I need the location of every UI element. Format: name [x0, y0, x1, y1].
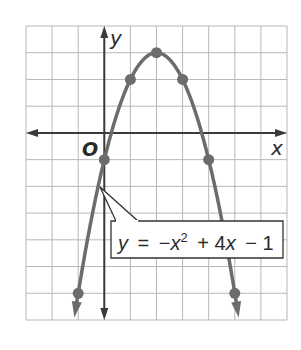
plotted-point [125, 74, 136, 85]
y-axis-up-arrow-icon [100, 26, 108, 38]
x-axis-left-arrow-icon [26, 129, 38, 137]
y-axis-label: y [109, 26, 123, 50]
curve-right-arrow-icon [231, 301, 241, 318]
grid [26, 26, 287, 320]
parabola-graph: y x O y = −x2 + 4x − 1 [0, 0, 301, 350]
origin-label: O [82, 138, 98, 160]
plotted-point [203, 154, 214, 165]
plotted-point [151, 47, 162, 58]
plotted-point [229, 288, 240, 299]
y-axis-down-arrow-icon [100, 308, 108, 320]
plotted-point [73, 288, 84, 299]
plotted-point [177, 74, 188, 85]
plotted-point [99, 154, 110, 165]
x-axis-label: x [270, 136, 283, 160]
equation-callout: y = −x2 + 4x − 1 [100, 187, 283, 258]
curve-left-arrow-icon [72, 301, 82, 318]
